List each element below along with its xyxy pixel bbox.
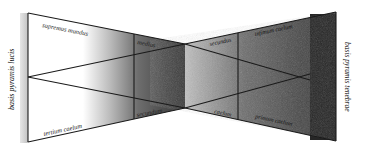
label-basis-pyramis-lucis: basis pyramis lucis [7, 49, 16, 110]
left-base-band [20, 13, 28, 143]
label-basis-pyramis-tenebrae: basis pyramis tenebrae [343, 42, 352, 112]
pyramid-diagram: basis pyramis lucis basis pyramis tenebr… [0, 0, 373, 155]
